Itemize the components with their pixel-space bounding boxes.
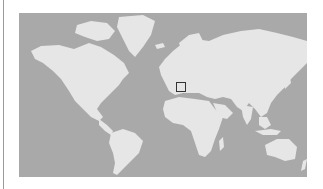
location-marker-square (176, 82, 186, 92)
left-border-rule (3, 0, 4, 189)
world-map-svg (19, 13, 307, 177)
world-map (19, 13, 307, 177)
